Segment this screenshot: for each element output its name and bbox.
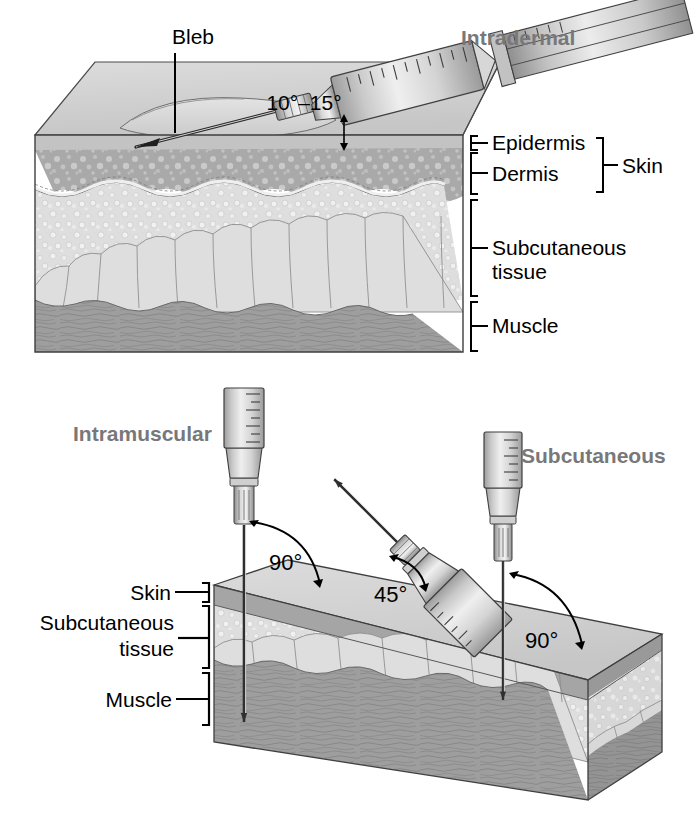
heading-intradermal: Intradermal bbox=[461, 26, 575, 49]
label-angle-im: 90° bbox=[269, 550, 302, 575]
label-dermis: Dermis bbox=[492, 162, 559, 185]
label-angle-sc-90: 90° bbox=[525, 628, 558, 653]
heading-intramuscular: Intramuscular bbox=[73, 422, 212, 445]
label-subcutaneous: Subcutaneous bbox=[492, 236, 626, 259]
label-epidermis: Epidermis bbox=[492, 131, 585, 154]
label-skin-group: Skin bbox=[622, 154, 663, 177]
barrel-shoulder-sc bbox=[486, 488, 520, 516]
intradermal-angle-label: 10°–15° bbox=[266, 91, 341, 114]
label-skin-bottom: Skin bbox=[130, 581, 171, 604]
label-muscle: Muscle bbox=[492, 314, 559, 337]
label-muscle-bottom: Muscle bbox=[105, 688, 172, 711]
barrel-shoulder-im bbox=[226, 448, 262, 478]
heading-subcutaneous: Subcutaneous bbox=[521, 444, 666, 467]
label-subcutaneous-bottom-2: tissue bbox=[119, 637, 174, 660]
hub-collar-im bbox=[230, 478, 258, 486]
injection-diagram-svg: Bleb 10°–15° Intradermal bbox=[0, 0, 698, 830]
label-subcutaneous-2: tissue bbox=[492, 260, 547, 283]
label-subcutaneous-bottom: Subcutaneous bbox=[40, 611, 174, 634]
hub-collar-sc bbox=[490, 516, 516, 524]
illustration-canvas: Bleb 10°–15° Intradermal bbox=[0, 0, 698, 830]
skin-layers bbox=[35, 135, 463, 352]
label-angle-sc-45: 45° bbox=[374, 582, 407, 607]
bleb-label: Bleb bbox=[172, 25, 214, 48]
